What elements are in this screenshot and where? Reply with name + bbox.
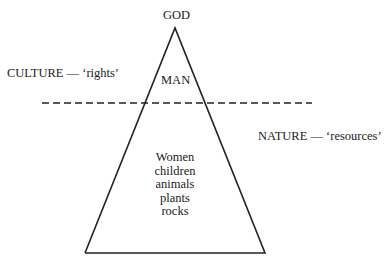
triangle-outline xyxy=(85,28,265,253)
nature-item: children xyxy=(135,165,215,179)
nature-items-list: Women children animals plants rocks xyxy=(135,151,215,219)
nature-label: NATURE — ‘resources’ xyxy=(258,129,382,143)
apex-label-god: GOD xyxy=(163,8,190,22)
man-label: MAN xyxy=(161,73,190,87)
culture-label: CULTURE — ‘rights’ xyxy=(7,66,119,80)
nature-item: plants xyxy=(135,192,215,206)
nature-item: Women xyxy=(135,151,215,165)
nature-item: animals xyxy=(135,178,215,192)
nature-item: rocks xyxy=(135,205,215,219)
